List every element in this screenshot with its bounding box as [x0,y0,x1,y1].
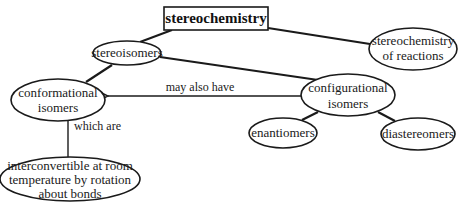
node-diastereomers: diastereomers [381,118,455,150]
node-configurational-isomers: configurational isomers [301,74,395,116]
node-interconvertible: interconvertible at room temperature by … [0,157,140,201]
node-label: of reactions [382,48,443,63]
node-label: isomers [328,96,368,111]
node-label: diastereomers [382,126,454,141]
node-stereochemistry-of-reactions: stereochemistry of reactions [369,28,457,70]
edge-stereoisomers-configurational [160,57,318,80]
node-label: conformational [18,85,98,100]
node-stereoisomers: stereoisomers [91,41,162,65]
link-label-which-are: which are [74,119,121,133]
node-label: temperature by rotation [9,172,132,187]
edge-stereoisomers-conformational [86,65,112,82]
edge-configurational-diastereomers [378,112,395,121]
title-node: stereochemistry [164,7,268,30]
edge-configurational-enantiomers [302,112,318,120]
node-conformational-isomers: conformational isomers [11,79,105,121]
node-label: about bonds [38,186,101,201]
node-label: stereoisomers [91,45,162,60]
edge-title-stereoisomers [140,30,172,42]
edge-title-reactions [268,28,370,44]
concept-map: stereochemistry stereoisomers stereochem… [0,0,470,203]
node-label: interconvertible at room [7,158,133,173]
link-label-may-also-have: may also have [166,80,235,94]
node-enantiomers: enantiomers [249,118,317,148]
title-label: stereochemistry [165,10,267,26]
node-label: isomers [38,100,78,115]
node-label: enantiomers [251,125,315,140]
node-label: stereochemistry [372,33,455,48]
node-label: configurational [308,80,388,95]
